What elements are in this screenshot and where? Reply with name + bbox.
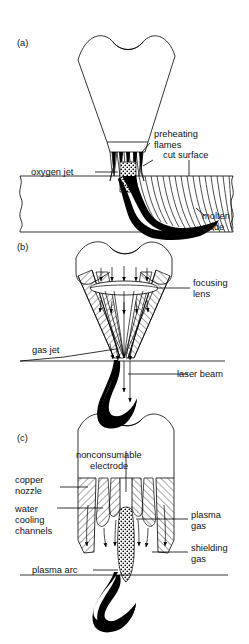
label-plasma-arc: plasma arc — [32, 565, 78, 575]
panel-a-id: (a) — [17, 38, 28, 48]
panel-b-id: (b) — [17, 242, 28, 252]
label-water-cooling-line2: cooling — [15, 515, 44, 525]
label-copper-nozzle-line1: copper — [15, 475, 43, 485]
label-shielding-gas-line2: gas — [191, 554, 206, 564]
label-plasma-gas-line2: gas — [191, 521, 206, 531]
label-molten-oxide-line2: oxide — [202, 222, 224, 232]
label-plasma-gas-line1: plasma — [191, 510, 222, 520]
label-gas-jet: gas jet — [32, 345, 60, 355]
label-focusing-lens-line2: lens — [193, 289, 210, 299]
panel-c-id: (c) — [17, 433, 28, 443]
label-electrode-line2: electrode — [90, 461, 128, 471]
label-cut-surface: cut surface — [163, 150, 208, 160]
label-preheating-flames-line1: preheating — [154, 129, 198, 139]
label-molten-oxide-line1: molten — [202, 211, 230, 221]
label-water-cooling-line3: channels — [15, 526, 53, 536]
plasma-column-shape — [118, 507, 135, 582]
label-shielding-gas-line1: shielding — [191, 543, 228, 553]
label-copper-nozzle-line2: nozzle — [15, 486, 42, 496]
thermal-cutting-figure: (a) — [0, 0, 249, 644]
label-water-cooling-line1: water — [14, 504, 38, 514]
label-focusing-lens-line1: focusing — [193, 278, 228, 288]
label-oxygen-jet: oxygen jet — [31, 167, 74, 177]
label-electrode-line1: nonconsumable — [76, 450, 142, 460]
label-laser-beam: laser beam — [177, 369, 223, 379]
label-preheating-flames-line2: flames — [154, 140, 182, 150]
